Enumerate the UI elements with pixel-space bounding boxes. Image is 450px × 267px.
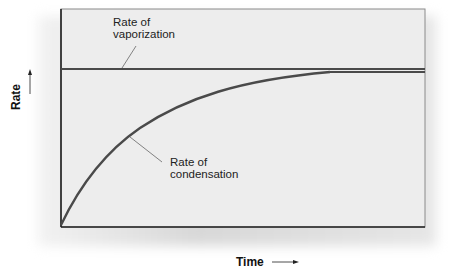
condensation-label-line1: Rate of [170,156,238,168]
vaporization-label-line2: vaporization [113,28,175,40]
chart-plot [0,0,450,267]
x-axis-title: Time [236,255,264,267]
vaporization-label-line1: Rate of [113,16,175,28]
y-axis-title: Rate [9,84,23,110]
condensation-annotation: Rate of condensation [170,156,238,180]
plot-area [61,9,425,227]
y-axis-arrow-icon [28,69,32,75]
vaporization-annotation: Rate of vaporization [113,16,175,40]
condensation-label-line2: condensation [170,168,238,180]
x-axis-arrow-icon [293,260,299,264]
